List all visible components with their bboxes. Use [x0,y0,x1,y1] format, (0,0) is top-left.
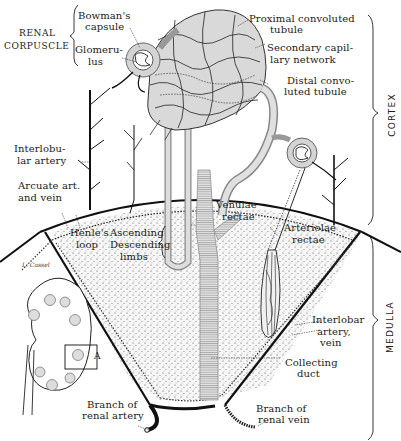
label-henles-1: Henle's [70,228,109,238]
label-branch-vein-1: Branch of [256,404,306,414]
label-corpuscle: CORPUSCLE [4,41,70,51]
label-henles-2: loop [76,240,98,250]
label-venulae-1: Venulae [216,200,257,210]
renal-branches [145,395,255,432]
label-distal-1: Distal convo- [287,76,354,86]
nephron-diagram [0,0,401,441]
label-interlobar-1: Interlobar [312,315,364,325]
label-arteriolae-1: Arteriolae [284,223,336,233]
kidney-inset [23,278,97,415]
label-renal: RENAL [19,28,56,38]
label-branch-artery-1: Branch of [87,400,137,410]
label-arteriolae-2: rectae [292,235,325,245]
label-arcuate-1: Arcuate art. [18,181,80,191]
label-collecting-2: duct [297,369,320,379]
label-descending: Descending [110,240,170,250]
label-glomerulus-2: lus [88,57,103,67]
label-branch-artery-2: renal artery [82,411,144,421]
label-inset-a: A [94,351,101,361]
label-medulla: MEDULLA [385,297,395,357]
label-venulae-2: rectae [222,212,255,222]
label-bowmans-capsule-1: Bowman's [78,11,131,21]
convoluted-tubule-network [148,10,266,140]
label-interlobar-3: vein [320,338,342,348]
label-interlobular-2: lar artery [17,156,66,166]
label-bowmans-capsule-2: capsule [85,22,124,32]
label-limbs: limbs [120,252,148,262]
label-cortex: CORTEX [387,85,397,145]
label-secondary-2: lary network [270,55,336,65]
artist-signature: L. Cassel [22,261,50,268]
label-interlobar-2: artery, [317,327,351,337]
label-secondary-1: Secondary capil- [267,43,353,53]
label-arcuate-2: and vein [18,193,62,203]
label-glomerulus-1: Glomeru- [75,45,123,55]
label-proximal-2: tubule [270,25,303,35]
label-branch-vein-2: renal vein [258,415,310,425]
label-proximal-1: Proximal convoluted [249,14,355,24]
label-ascending: Ascending [110,228,164,238]
label-distal-2: luted tubule [284,87,347,97]
label-collecting-1: Collecting [285,358,338,368]
label-interlobular-1: Interlobu- [14,144,66,154]
